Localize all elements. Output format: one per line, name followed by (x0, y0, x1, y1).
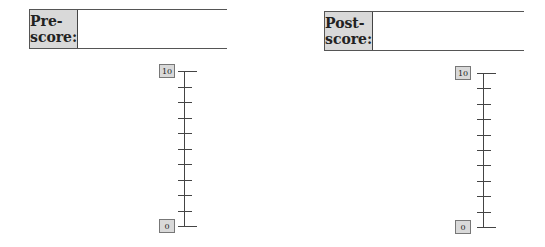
scale-tick (477, 135, 491, 136)
post-score-input[interactable] (373, 12, 545, 50)
scale-tick (477, 150, 491, 151)
scale-tick (477, 196, 491, 197)
scale-tick (178, 211, 192, 212)
scale-tick (477, 181, 491, 182)
pre-score-label: Pre-score: (30, 10, 78, 48)
scale-tick (178, 195, 192, 196)
post-scale-max-label: 10 (455, 66, 471, 80)
scale-tick (477, 73, 496, 74)
scale-tick (178, 149, 192, 150)
scale-tick (178, 118, 192, 119)
scale-tick (178, 71, 197, 72)
scale-tick (178, 133, 192, 134)
scale-tick (477, 212, 491, 213)
post-score-label: Post-score: (325, 12, 373, 50)
post-score-box: Post-score: (324, 11, 524, 51)
scale-tick (178, 180, 192, 181)
post-scale-min-label: 0 (455, 220, 471, 234)
pre-score-box: Pre-score: (29, 9, 227, 49)
pre-scale-max-label: 10 (159, 64, 175, 78)
pre-score-input[interactable] (78, 10, 267, 48)
scale-tick (178, 226, 197, 227)
scale-tick (477, 119, 491, 120)
scale-tick (477, 165, 491, 166)
scale-tick (477, 88, 491, 89)
scale-tick (178, 102, 192, 103)
scale-tick (178, 87, 192, 88)
pre-scale-min-label: 0 (159, 219, 175, 233)
scale-tick (178, 164, 192, 165)
scale-tick (477, 227, 496, 228)
scale-tick (477, 104, 491, 105)
